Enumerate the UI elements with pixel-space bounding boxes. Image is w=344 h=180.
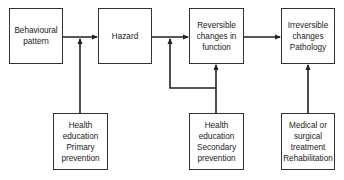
box-label: Irreversible changes Pathology bbox=[288, 20, 329, 53]
box-label: Hazard bbox=[112, 31, 138, 42]
box-hazard: Hazard bbox=[98, 8, 152, 64]
box-label: Behavioural pattern bbox=[14, 25, 57, 47]
box-label: Health education Secondary prevention bbox=[197, 120, 236, 164]
box-reversible-changes: Reversible changes in function bbox=[189, 8, 244, 64]
box-medical-treatment: Medical or surgical treatment Rehabilita… bbox=[281, 113, 335, 170]
box-label: Health education Primary prevention bbox=[61, 120, 99, 164]
box-behavioural-pattern: Behavioural pattern bbox=[9, 8, 63, 64]
box-irreversible-changes: Irreversible changes Pathology bbox=[281, 8, 335, 64]
box-secondary-prevention: Health education Secondary prevention bbox=[189, 113, 244, 170]
box-label: Reversible changes in function bbox=[197, 20, 237, 53]
box-primary-prevention: Health education Primary prevention bbox=[53, 113, 108, 170]
box-label: Medical or surgical treatment Rehabilita… bbox=[283, 120, 333, 164]
